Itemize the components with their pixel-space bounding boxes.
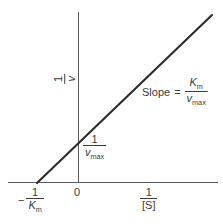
y-axis-title-numerator: 1 xyxy=(52,74,65,84)
slope-annotation-text: Slope xyxy=(142,86,170,98)
slope-numerator: Km xyxy=(185,76,208,92)
x-axis-title-numerator: 1 xyxy=(140,186,157,199)
x-intercept-annotation: − 1 Km xyxy=(18,186,44,215)
slope-numerator-symbol: K xyxy=(189,76,196,88)
x-axis-title-fraction: 1 [S] xyxy=(140,186,157,212)
x-axis-title: 1 [S] xyxy=(140,186,157,212)
slope-annotation: Slope = Km vmax xyxy=(142,76,208,108)
y-axis-title: 1 v xyxy=(45,64,85,94)
slope-denominator-subscript: max xyxy=(192,99,206,108)
y-intercept-fraction: 1 vmax xyxy=(83,133,106,162)
slope-denominator: vmax xyxy=(185,92,208,107)
x-intercept-fraction: 1 Km xyxy=(26,186,43,215)
lineweaver-burk-plot: 1 v 1 vmax Slope = Km vmax 0 − 1 Km 1 [ xyxy=(0,0,223,224)
slope-numerator-subscript: m xyxy=(197,82,203,91)
y-axis-title-fraction: 1 v xyxy=(52,74,78,84)
x-intercept-minus-sign: − xyxy=(18,194,24,207)
slope-annotation-equals: = xyxy=(174,86,180,98)
x-intercept-denominator-symbol: K xyxy=(28,199,35,211)
y-intercept-denominator: vmax xyxy=(83,146,106,161)
x-intercept-numerator: 1 xyxy=(26,186,43,199)
y-intercept-annotation: 1 vmax xyxy=(83,133,106,162)
y-intercept-denominator-subscript: max xyxy=(91,153,105,162)
x-axis-title-denominator: [S] xyxy=(140,199,157,211)
y-intercept-numerator: 1 xyxy=(83,133,106,146)
x-intercept-denominator: Km xyxy=(26,199,43,214)
origin-tick-label: 0 xyxy=(74,186,80,198)
y-axis-title-denominator: v xyxy=(66,74,78,84)
y-axis-title-rotated-group: 1 v xyxy=(52,74,78,84)
x-intercept-denominator-subscript: m xyxy=(36,206,42,215)
slope-annotation-fraction: Km vmax xyxy=(185,76,208,108)
